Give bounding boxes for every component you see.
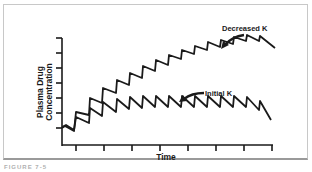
annotation-decreased-k-label: Decreased K: [222, 24, 268, 33]
y-axis: [56, 38, 62, 146]
y-axis-label-line2: Concentration: [44, 63, 54, 121]
figure-caption: FIGURE 7-5: [4, 164, 47, 170]
x-axis-label: Time: [156, 152, 176, 162]
chart: Plasma Drug Concentration Time Decreased…: [0, 0, 312, 172]
series-initial-k: [62, 96, 271, 130]
x-axis: [62, 145, 273, 151]
annotation-initial-k-label: Initial K: [205, 89, 233, 98]
series-decreased-k: [62, 35, 275, 131]
